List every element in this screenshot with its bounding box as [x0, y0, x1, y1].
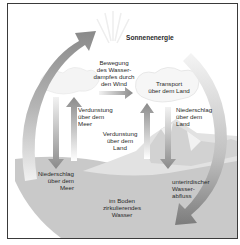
label-transport-land: Transport über dem Land	[138, 80, 200, 94]
label-evap-land: Verdunstung über dem Land	[95, 130, 145, 151]
sun-rays	[97, 11, 129, 43]
label-solar-energy: Sonnenenergie	[126, 34, 174, 41]
wind-arrow	[99, 87, 133, 99]
label-soil-water: im Boden zirkulierendes Wasser	[96, 197, 148, 218]
label-precip-land: Niederschlag über dem Land	[176, 106, 212, 127]
label-underground-runoff: unterirdischer Wasser- abfluss	[172, 178, 210, 199]
label-precip-sea: Niederschlag über dem Meer	[22, 170, 74, 191]
label-wind-transport: Bewegung des Wasser- dampfes durch den W…	[86, 59, 142, 87]
label-evap-sea: Verdunstung über dem Meer	[78, 106, 113, 127]
